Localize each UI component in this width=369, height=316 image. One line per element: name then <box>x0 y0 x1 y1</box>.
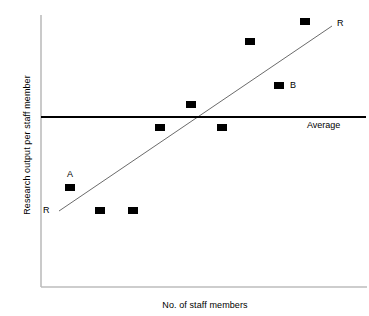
data-point-marker <box>95 207 105 214</box>
regression-label-bottom: R <box>43 206 50 215</box>
data-point-marker <box>65 184 75 191</box>
data-point-marker <box>128 207 138 214</box>
data-point-marker <box>155 124 165 131</box>
data-point-marker <box>217 124 227 131</box>
scatter-chart: Research output per staff member No. of … <box>0 0 369 316</box>
regression-label-top: R <box>337 19 344 28</box>
x-axis-label: No. of staff members <box>41 300 369 310</box>
plot-area <box>0 0 369 316</box>
y-axis-label: Research output per staff member <box>22 55 32 235</box>
point-label-a: A <box>67 170 73 179</box>
point-label-b: B <box>290 81 296 90</box>
regression-line <box>59 26 332 211</box>
data-point-marker <box>300 18 310 25</box>
data-point-marker <box>245 38 255 45</box>
data-point-marker-b <box>274 82 284 89</box>
data-point-marker <box>186 101 196 108</box>
average-line-label: Average <box>307 121 340 130</box>
